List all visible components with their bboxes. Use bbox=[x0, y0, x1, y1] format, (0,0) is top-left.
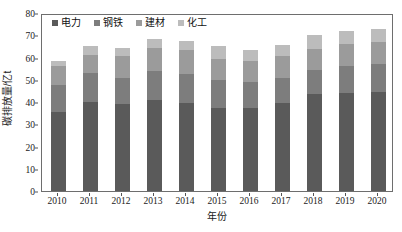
bar-column bbox=[51, 61, 66, 191]
x-axis-tick-label: 2010 bbox=[48, 196, 67, 206]
x-axis-tick-mark bbox=[217, 193, 218, 196]
x-axis-tick-label: 2017 bbox=[272, 196, 291, 206]
bar-column bbox=[339, 31, 354, 191]
x-axis-tick-label: 2020 bbox=[368, 196, 387, 206]
bar-segment bbox=[51, 85, 66, 112]
y-axis-title-text: 碳排放量/亿t bbox=[0, 70, 15, 126]
x-axis-tick-mark bbox=[153, 193, 154, 196]
bar-segment bbox=[211, 80, 226, 108]
y-axis-tick-label: 10 bbox=[26, 165, 36, 175]
legend-swatch-icon bbox=[136, 20, 142, 26]
y-axis-tick-label: 70 bbox=[26, 31, 36, 41]
legend-item[interactable]: 钢铁 bbox=[94, 18, 123, 28]
bar-segment bbox=[147, 48, 162, 71]
bar-segment bbox=[307, 49, 322, 70]
x-axis-tick-label: 2014 bbox=[176, 196, 195, 206]
legend-swatch-icon bbox=[178, 20, 184, 26]
legend-item-label: 钢铁 bbox=[103, 18, 123, 28]
bar-series-container bbox=[42, 15, 392, 191]
bar-segment bbox=[371, 42, 386, 64]
x-axis-tick-label: 2012 bbox=[112, 196, 131, 206]
bar-segment bbox=[371, 29, 386, 42]
plot-area bbox=[41, 14, 393, 192]
legend-item[interactable]: 化工 bbox=[178, 18, 207, 28]
y-axis-tick-labels: 01020304050607080 bbox=[14, 0, 38, 232]
x-axis-tick-labels: 2010201120122013201420152016201720182019… bbox=[41, 193, 393, 209]
bar-segment bbox=[339, 44, 354, 66]
legend-swatch-icon bbox=[52, 20, 58, 26]
bar-column bbox=[275, 45, 290, 191]
x-axis-tick-label: 2018 bbox=[304, 196, 323, 206]
bar-segment bbox=[307, 70, 322, 94]
x-axis-tick-label: 2011 bbox=[80, 196, 99, 206]
bar-segment bbox=[275, 78, 290, 104]
bar-segment bbox=[179, 50, 194, 74]
bar-segment bbox=[51, 112, 66, 191]
bar-column bbox=[211, 46, 226, 191]
bar-segment bbox=[179, 103, 194, 191]
x-axis-tick-label: 2015 bbox=[208, 196, 227, 206]
legend-item[interactable]: 建材 bbox=[136, 18, 165, 28]
bar-segment bbox=[371, 92, 386, 191]
bar-segment bbox=[83, 73, 98, 102]
bar-segment bbox=[243, 82, 258, 108]
bar-segment bbox=[147, 100, 162, 191]
y-axis-tick-label: 80 bbox=[26, 9, 36, 19]
legend-item-label: 化工 bbox=[187, 18, 207, 28]
y-axis-tick-mark bbox=[35, 169, 38, 170]
bar-segment bbox=[179, 41, 194, 50]
y-axis-tick-mark bbox=[35, 80, 38, 81]
bar-segment bbox=[115, 48, 130, 57]
x-axis-tick-mark bbox=[121, 193, 122, 196]
x-axis-tick-mark bbox=[345, 193, 346, 196]
bar-segment bbox=[211, 59, 226, 80]
legend-item-label: 建材 bbox=[145, 18, 165, 28]
x-axis-tick-mark bbox=[249, 193, 250, 196]
bar-segment bbox=[243, 50, 258, 61]
stacked-bar-chart-figure: 碳排放量/亿t 01020304050607080 电力钢铁建材化工 20102… bbox=[0, 0, 402, 232]
legend-item-label: 电力 bbox=[61, 18, 81, 28]
x-axis-tick-mark bbox=[89, 193, 90, 196]
bar-segment bbox=[115, 104, 130, 191]
bar-segment bbox=[147, 71, 162, 100]
y-axis-tick-mark bbox=[35, 36, 38, 37]
x-axis-title: 年份 bbox=[41, 208, 393, 223]
bar-segment bbox=[275, 103, 290, 191]
y-axis-tick-label: 50 bbox=[26, 76, 36, 86]
bar-segment bbox=[307, 94, 322, 191]
x-axis-tick-mark bbox=[185, 193, 186, 196]
bar-segment bbox=[371, 64, 386, 92]
x-axis-tick-mark bbox=[57, 193, 58, 196]
x-axis-tick-mark bbox=[281, 193, 282, 196]
bar-segment bbox=[243, 108, 258, 191]
y-axis-tick-mark bbox=[35, 147, 38, 148]
bar-segment bbox=[275, 56, 290, 77]
x-axis-tick-label: 2019 bbox=[336, 196, 355, 206]
y-axis-tick-label: 40 bbox=[26, 98, 36, 108]
y-axis-tick-label: 60 bbox=[26, 54, 36, 64]
bar-segment bbox=[211, 108, 226, 191]
y-axis-tick-mark bbox=[35, 14, 38, 15]
bar-segment bbox=[211, 46, 226, 58]
bar-segment bbox=[51, 66, 66, 85]
bar-segment bbox=[147, 39, 162, 48]
chart-legend: 电力钢铁建材化工 bbox=[52, 18, 207, 28]
y-axis-tick-mark bbox=[35, 58, 38, 59]
bar-column bbox=[371, 29, 386, 191]
bar-column bbox=[243, 50, 258, 191]
bar-segment bbox=[307, 35, 322, 48]
bar-segment bbox=[179, 74, 194, 103]
x-axis-tick-label: 2016 bbox=[240, 196, 259, 206]
legend-item[interactable]: 电力 bbox=[52, 18, 81, 28]
x-axis-tick-label: 2013 bbox=[144, 196, 163, 206]
y-axis-title: 碳排放量/亿t bbox=[0, 0, 14, 196]
bar-segment bbox=[339, 31, 354, 44]
bar-segment bbox=[83, 55, 98, 73]
bar-column bbox=[147, 39, 162, 191]
x-axis-tick-mark bbox=[377, 193, 378, 196]
bar-segment bbox=[243, 61, 258, 82]
bar-column bbox=[83, 46, 98, 191]
y-axis-tick-label: 20 bbox=[26, 143, 36, 153]
bar-segment bbox=[83, 46, 98, 55]
bar-column bbox=[307, 35, 322, 191]
